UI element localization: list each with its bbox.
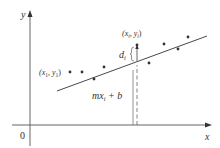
regression-line [57, 36, 207, 91]
deviation-brace-icon [130, 47, 134, 61]
axes: y x 0 [12, 9, 212, 146]
y-axis-label: y [20, 9, 26, 20]
first-point-label: (x1, y1) [39, 68, 61, 78]
x-axis-label: x [204, 131, 210, 142]
deviation-label: di [119, 49, 126, 61]
data-point [69, 71, 72, 74]
x-axis-arrow-icon [205, 123, 212, 128]
data-points [69, 36, 190, 81]
data-point [187, 36, 190, 39]
data-point [103, 66, 106, 69]
data-point [148, 62, 151, 65]
data-point [81, 71, 84, 74]
data-point [163, 43, 166, 46]
line-equation-label: mxi + b [92, 90, 122, 102]
data-point [177, 48, 180, 51]
ith-point-label: (xi, yi) [122, 29, 142, 39]
data-point [136, 44, 139, 47]
data-point [93, 78, 96, 81]
y-axis-arrow-icon [28, 10, 33, 17]
origin-label: 0 [20, 130, 25, 141]
least-squares-diagram: y x 0 (x1, y1) (xi, yi) di mxi + b [0, 0, 220, 148]
